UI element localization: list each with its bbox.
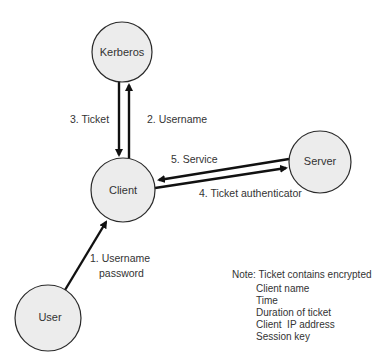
note-item-time: Time <box>256 295 278 306</box>
client-label: Client <box>109 184 137 196</box>
note-item-client-name: Client name <box>256 283 310 294</box>
node-user: User <box>15 285 81 351</box>
user-label: User <box>38 311 62 323</box>
node-client: Client <box>91 158 155 222</box>
note-heading: Note: Ticket contains encrypted <box>232 269 372 280</box>
kerberos-label: Kerberos <box>100 46 145 58</box>
note-item-duration: Duration of ticket <box>256 307 331 318</box>
label-ticket: 3. Ticket <box>70 113 109 125</box>
node-server: Server <box>289 131 351 193</box>
note-item-client-ip: Client IP address <box>256 319 335 330</box>
server-label: Server <box>304 155 337 167</box>
node-kerberos: Kerberos <box>92 22 152 82</box>
label-password-line2: password <box>99 267 144 279</box>
label-ticket-authenticator: 4. Ticket authenticator <box>199 187 302 199</box>
note-block: Note: Ticket contains encrypted Client n… <box>232 269 372 342</box>
label-username-to-kerberos: 2. Username <box>147 113 207 125</box>
label-service: 5. Service <box>171 153 218 165</box>
label-username-line1: 1. Username <box>90 252 150 264</box>
kerberos-diagram: Kerberos Client Server User 3. Ticket 2.… <box>0 0 372 364</box>
note-item-session-key: Session key <box>256 331 310 342</box>
